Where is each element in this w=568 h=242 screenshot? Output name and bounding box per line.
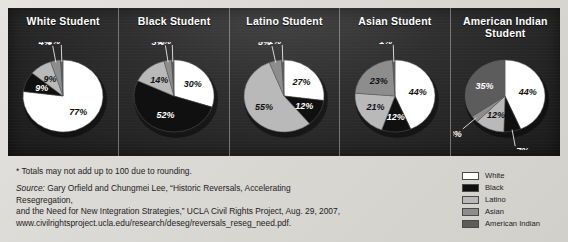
pie-slice-label: 44% [518, 87, 537, 97]
pie-panel-title: Latino Student [230, 15, 339, 27]
pie-panel-black-student: Black Student30%52%14%3%1% [118, 8, 228, 156]
pie-label-leader-line [61, 45, 62, 62]
pie-svg: 27%12%55%5%1% [232, 42, 336, 150]
pie-slice-label: 77% [69, 107, 87, 117]
pie-slice-label: 1% [379, 42, 392, 46]
pie-panel-american-indian-student: American Indian Student44%7%12%3%35% [450, 8, 560, 156]
pie-svg: 44%12%21%23%1% [343, 42, 447, 150]
legend-label: Latino [485, 195, 506, 204]
pie-label-leader-line [172, 45, 173, 62]
legend-item: Latino [462, 194, 562, 205]
pie-label-leader-line [165, 46, 168, 63]
pie-chart: 77%9%9%4%1% [8, 42, 118, 152]
pie-chart: 27%12%55%5%1% [230, 42, 339, 152]
pie-slice-label: 35% [476, 81, 494, 91]
pie-svg: 44%7%12%3%35% [453, 42, 557, 150]
pie-slice-label: 1% [47, 42, 60, 46]
pie-label-leader-line [463, 118, 476, 129]
pie-slice-label: 27% [292, 77, 311, 87]
pie-slice-label: 12% [296, 101, 314, 111]
pie-label-leader-line [393, 45, 394, 62]
legend-item: Black [462, 182, 562, 193]
legend-swatch-black [462, 184, 479, 192]
pie-slice-label: 1% [158, 42, 171, 46]
pie-slice-label: 21% [365, 102, 384, 112]
pie-label-leader-line [272, 46, 276, 63]
pie-slice-label: 9% [44, 74, 57, 84]
legend-label: Black [485, 183, 504, 192]
pie-slice-label: 12% [387, 112, 405, 122]
legend-label: Asian [485, 207, 504, 216]
legend-item: Asian [462, 206, 562, 217]
legend-label: American Indian [485, 219, 540, 228]
pie-panel-latino-student: Latino Student27%12%55%5%1% [229, 8, 339, 156]
pie-slice-label: 44% [408, 87, 427, 97]
infographic-figure: White Student77%9%9%4%1%Black Student30%… [0, 0, 568, 242]
pie-svg: 30%52%14%3%1% [122, 42, 226, 150]
legend: WhiteBlackLatinoAsianAmerican Indian [462, 170, 562, 230]
source-line-2: and the Need for New Integration Strateg… [16, 206, 340, 216]
pie-svg: 77%9%9%4%1% [11, 42, 115, 150]
pie-chart: 44%7%12%3%35% [451, 42, 560, 152]
pie-panel-title: Black Student [119, 15, 228, 27]
pie-slice-label: 30% [184, 79, 202, 89]
legend-item: White [462, 170, 562, 181]
pie-panel-title: White Student [8, 15, 118, 27]
legend-swatch-latino [462, 196, 479, 204]
legend-swatch-asian [462, 208, 479, 216]
pie-slice-label: 12% [487, 110, 505, 120]
pie-slice-label: 1% [269, 42, 282, 46]
legend-label: White [485, 171, 504, 180]
pie-panel-title: American Indian Student [451, 15, 560, 39]
pie-slice-label: 9% [35, 83, 48, 93]
notes-block: * Totals may not add up to 100 due to ro… [16, 166, 346, 229]
source-label: Source: [16, 183, 45, 193]
pie-slice-label: 7% [516, 146, 529, 150]
pie-panel-title: Asian Student [340, 15, 449, 27]
pie-slice-label: 14% [150, 75, 168, 85]
charts-panel: White Student77%9%9%4%1%Black Student30%… [8, 8, 560, 156]
source-line-1: Gary Orfield and Chungmei Lee, “Historic… [16, 183, 291, 204]
pie-label-leader-line [53, 46, 56, 63]
pie-panel-asian-student: Asian Student44%12%21%23%1% [339, 8, 449, 156]
pie-slice-label: 52% [157, 110, 175, 120]
pie-slice-label: 23% [369, 76, 388, 86]
pie-chart: 44%12%21%23%1% [340, 42, 449, 152]
pie-label-leader-line [283, 45, 284, 62]
source-citation: Source: Gary Orfield and Chungmei Lee, “… [16, 183, 346, 229]
pie-slice-label: 55% [255, 102, 273, 112]
pie-chart: 30%52%14%3%1% [119, 42, 228, 152]
legend-swatch-white [462, 172, 479, 180]
pie-panel-white-student: White Student77%9%9%4%1% [8, 8, 118, 156]
pie-slice-label: 3% [453, 129, 462, 139]
source-line-3: www.civilrightsproject.ucla.edu/research… [16, 218, 291, 228]
legend-swatch-american-indian [462, 220, 479, 228]
legend-item: American Indian [462, 218, 562, 229]
footnote-text: * Totals may not add up to 100 due to ro… [16, 166, 346, 177]
